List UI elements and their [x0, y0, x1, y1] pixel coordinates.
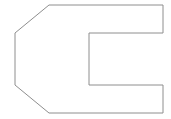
drawing-canvas	[0, 0, 171, 119]
c-shape-outline-svg	[0, 0, 171, 119]
c-shape-outline-path	[15, 5, 163, 113]
